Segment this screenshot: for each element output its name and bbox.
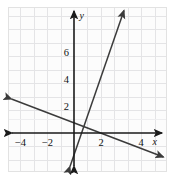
x-tick-label-neg2: −2	[42, 137, 53, 148]
x-axis-label: x	[152, 136, 158, 147]
y-tick-label-pos4: 4	[64, 74, 70, 85]
x-tick-label-neg4: −4	[15, 137, 27, 148]
x-tick-label-pos4: 4	[138, 137, 144, 148]
graph-figure: y x −4 −2 2 4 2 4 6	[0, 0, 175, 175]
coordinate-plane-svg: y x −4 −2 2 4 2 4 6	[0, 0, 175, 175]
x-tick-label-pos2: 2	[98, 137, 103, 148]
y-axis-label: y	[79, 10, 85, 21]
screenshot-root: y x −4 −2 2 4 2 4 6	[0, 0, 175, 189]
y-tick-label-pos6: 6	[64, 47, 69, 58]
y-tick-label-pos2: 2	[64, 101, 69, 112]
